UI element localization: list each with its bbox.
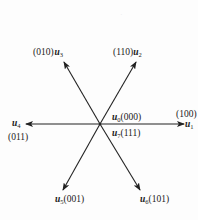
label-u0: u0(000): [112, 113, 141, 124]
label-u3: (010) u3: [33, 48, 63, 59]
origin-point: [99, 123, 102, 126]
subscript-u2: 2: [139, 51, 142, 58]
state-u3: (010): [33, 47, 54, 57]
subscript-u4: 4: [17, 122, 20, 129]
vector-u3-arrow: [64, 62, 100, 124]
label-u1: u1: [185, 120, 194, 131]
state-u7: (111): [121, 128, 141, 138]
state-u2: (110): [113, 47, 133, 57]
state-u6: (101): [149, 194, 170, 204]
state-u0: (000): [121, 112, 142, 122]
label-u4: u4: [12, 119, 21, 130]
subscript-u3: 3: [60, 51, 63, 58]
label-u6: u6(101): [140, 195, 169, 206]
label-u5: u5(001): [55, 195, 84, 206]
subscript-u1: 1: [190, 123, 193, 130]
vector-u5-arrow: [63, 124, 100, 190]
label-u7: u7(111): [112, 129, 140, 140]
state-u5: (001): [64, 194, 85, 204]
space-vector-diagram: · (010) u3 (110)u2 (100) u1 u4 (011) u0(…: [0, 0, 198, 220]
vector-lines: [0, 0, 198, 220]
label-u2: (110)u2: [113, 48, 142, 59]
state-u4: (011): [8, 133, 28, 143]
